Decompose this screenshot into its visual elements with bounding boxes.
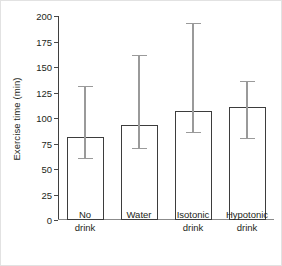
plot-area: 0255075100125150175200: [58, 16, 274, 220]
y-tick-mark: [54, 169, 58, 170]
y-tick-label: 175: [36, 36, 52, 47]
y-tick-label: 75: [41, 138, 52, 149]
error-bar-stem: [246, 81, 247, 138]
y-tick-mark: [54, 118, 58, 119]
error-bar-cap-lower: [240, 138, 255, 139]
y-tick-label: 150: [36, 62, 52, 73]
y-tick-mark: [54, 195, 58, 196]
y-tick-label: 50: [41, 164, 52, 175]
y-tick-label: 200: [36, 11, 52, 22]
error-bar-cap-upper: [186, 23, 201, 24]
error-bar-cap-upper: [132, 55, 147, 56]
error-bar-stem: [84, 86, 85, 157]
error-bar-cap-lower: [132, 148, 147, 149]
y-tick-mark: [54, 144, 58, 145]
error-bar-cap-lower: [78, 158, 93, 159]
x-axis-label-3: Hypotonic drink: [220, 209, 274, 234]
error-bar-cap-lower: [186, 132, 201, 133]
x-axis-label-0: No drink: [58, 209, 112, 234]
y-axis-line: [58, 16, 59, 220]
error-bar-stem: [138, 55, 139, 148]
y-tick-label: 100: [36, 113, 52, 124]
error-bar-cap-upper: [240, 81, 255, 82]
x-axis-label-2: Isotonic drink: [166, 209, 220, 234]
y-axis-label: Exercise time (min): [9, 9, 25, 229]
x-axis-label-1: Water: [112, 209, 166, 222]
error-bar-stem: [192, 23, 193, 132]
y-tick-label: 25: [41, 189, 52, 200]
y-tick-label: 0: [47, 215, 52, 226]
bar-chart-figure: Exercise time (min) 02550751001251501752…: [0, 0, 282, 266]
y-tick-mark: [54, 16, 58, 17]
y-tick-mark: [54, 93, 58, 94]
error-bar-cap-upper: [78, 86, 93, 87]
y-tick-mark: [54, 67, 58, 68]
y-tick-mark: [54, 42, 58, 43]
y-tick-label: 125: [36, 87, 52, 98]
